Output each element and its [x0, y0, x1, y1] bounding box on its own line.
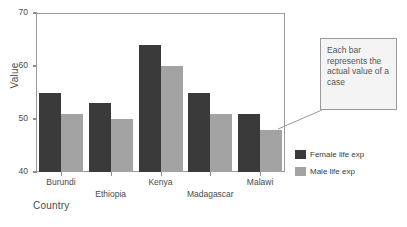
- y-axis-title: Value: [9, 46, 20, 106]
- bar: [161, 66, 183, 172]
- x-axis-category-label: Malawi: [228, 177, 292, 187]
- callout-box: Each bar represents the actual value of …: [320, 38, 397, 110]
- bar: [89, 103, 111, 172]
- bars-container: [36, 13, 285, 172]
- bar: [39, 93, 61, 173]
- x-axis-tick-mark: [210, 172, 211, 176]
- x-axis-category-label: Burundi: [29, 177, 93, 187]
- bar-group: [238, 13, 282, 172]
- bar-group: [188, 13, 232, 172]
- bar: [238, 114, 260, 172]
- y-axis-tick-label: 70: [6, 7, 28, 17]
- x-axis-category-label: Ethiopia: [79, 189, 143, 199]
- callout-text: Each bar represents the actual value of …: [327, 45, 391, 87]
- legend-item: Male life exp: [295, 165, 364, 178]
- x-axis-category-label: Kenya: [129, 177, 193, 187]
- bar: [210, 114, 232, 172]
- bar: [111, 119, 133, 172]
- legend-label-male: Male life exp: [310, 167, 355, 176]
- y-axis-tick-label: 60: [6, 60, 28, 70]
- legend-label-female: Female life exp: [310, 150, 364, 159]
- bar-group: [89, 13, 133, 172]
- bar-chart-figure: Value Country 40506070 BurundiEthiopiaKe…: [0, 0, 407, 227]
- legend-swatch-female-icon: [295, 150, 306, 159]
- bar: [139, 45, 161, 172]
- x-axis-title: Country: [33, 200, 69, 211]
- legend-item: Female life exp: [295, 148, 364, 161]
- bar-group: [39, 13, 83, 172]
- bar: [188, 93, 210, 173]
- y-axis-tick-label: 50: [6, 113, 28, 123]
- x-axis-tick-mark: [161, 172, 162, 176]
- x-axis-tick-mark: [260, 172, 261, 176]
- bar: [61, 114, 83, 172]
- x-axis-tick-mark: [111, 172, 112, 176]
- bar-group: [139, 13, 183, 172]
- legend: Female life exp Male life exp: [295, 148, 364, 182]
- x-axis-category-label: Madagascar: [178, 189, 242, 199]
- legend-swatch-male-icon: [295, 167, 306, 176]
- x-axis-tick-mark: [61, 172, 62, 176]
- y-axis-tick-label: 40: [6, 166, 28, 176]
